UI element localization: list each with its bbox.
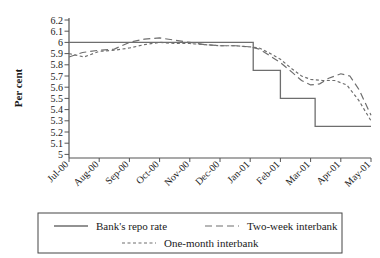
chart-figure: Per cent 6.2 6.1 6 5.9 5.8 5.7 5.6 5.5 5…	[0, 0, 380, 258]
y-tick-label: 5.9	[51, 48, 64, 59]
y-tick-label: 5.8	[51, 59, 64, 70]
y-tick-label: 6.1	[51, 26, 64, 37]
y-tick-label: 5.2	[51, 127, 64, 138]
interest-rate-line-chart: Per cent 6.2 6.1 6 5.9 5.8 5.7 5.6 5.5 5…	[0, 0, 380, 258]
y-tick-label: 5.6	[51, 82, 64, 93]
y-tick-label: 5.1	[51, 138, 64, 149]
y-axis-title: Per cent	[12, 68, 24, 107]
y-tick-label: 5.7	[51, 71, 64, 82]
y-tick-label: 6	[58, 37, 63, 48]
y-tick-label: 5.5	[51, 93, 64, 104]
legend-label-one-month-interbank: One-month interbank	[164, 237, 259, 249]
y-tick-label: 6.2	[51, 15, 64, 26]
legend-label-two-week-interbank: Two-week interbank	[247, 220, 338, 232]
y-tick-label: 5	[58, 149, 63, 160]
y-axis-tick-labels: 6.2 6.1 6 5.9 5.8 5.7 5.6 5.5 5.4 5.3 5.…	[51, 15, 64, 160]
legend-label-repo-rate: Bank's repo rate	[96, 220, 167, 232]
y-tick-label: 5.4	[51, 104, 64, 115]
y-tick-label: 5.3	[51, 115, 64, 126]
